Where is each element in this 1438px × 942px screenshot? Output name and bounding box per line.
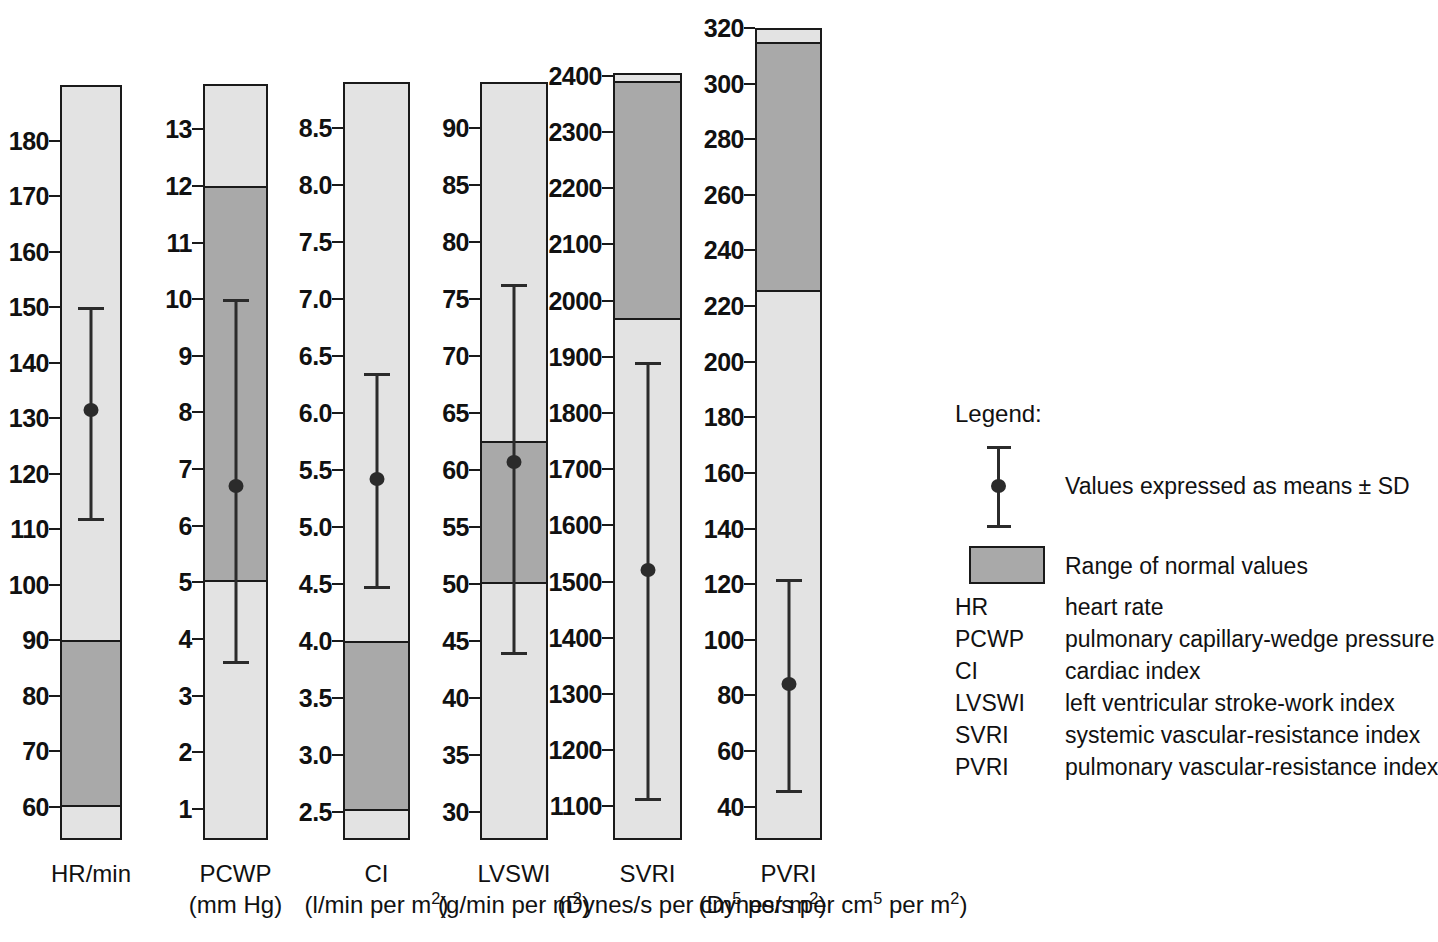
legend-abbreviation-row: HRheart rate — [955, 594, 1335, 626]
tick-label: 100 — [0, 570, 49, 599]
tick-mark — [469, 241, 480, 243]
tick-mark — [332, 811, 343, 813]
legend-abbreviation-row: CIcardiac index — [955, 658, 1335, 690]
tick-label: 60 — [639, 737, 744, 766]
tick-mark — [332, 184, 343, 186]
legend: Legend: Values expressed as means ± SD R… — [955, 400, 1335, 786]
tick-label: 1100 — [497, 792, 602, 821]
tick-label: 90 — [364, 113, 469, 142]
tick-label: 45 — [364, 626, 469, 655]
tick-mark — [744, 83, 755, 85]
tick-mark — [49, 306, 60, 308]
tick-mark — [49, 362, 60, 364]
tick-label: 60 — [0, 792, 49, 821]
tick-mark — [332, 355, 343, 357]
legend-abbreviation-definition: systemic vascular-resistance index — [1065, 722, 1420, 749]
legend-abbreviation-definition: pulmonary vascular-resistance index — [1065, 754, 1438, 781]
errorbar-bottom-cap-lvswi — [501, 652, 527, 655]
tick-mark — [744, 138, 755, 140]
tick-mark — [602, 243, 613, 245]
tick-mark — [192, 751, 203, 753]
tick-mark — [469, 526, 480, 528]
tick-mark — [192, 695, 203, 697]
tick-label: 7.0 — [227, 284, 332, 313]
tick-label: 70 — [364, 341, 469, 370]
tick-label: 4 — [87, 624, 192, 653]
tick-label: 200 — [639, 347, 744, 376]
tick-label: 130 — [0, 404, 49, 433]
tick-label: 12 — [87, 171, 192, 200]
tick-label: 150 — [0, 293, 49, 322]
tick-label: 85 — [364, 170, 469, 199]
tick-mark — [602, 468, 613, 470]
tick-mark — [192, 638, 203, 640]
tick-mark — [602, 75, 613, 77]
tick-mark — [602, 693, 613, 695]
legend-abbreviation-definition: heart rate — [1065, 594, 1163, 621]
tick-mark — [332, 127, 343, 129]
tick-label: 50 — [364, 569, 469, 598]
errorbar-bottom-cap-pvri — [776, 790, 802, 793]
legend-band-label: Range of normal values — [1065, 553, 1308, 580]
tick-label: 1500 — [497, 567, 602, 596]
tick-label: 5.0 — [227, 512, 332, 541]
errorbar-bottom-cap-pcwp — [223, 661, 249, 664]
tick-label: 11 — [87, 228, 192, 257]
tick-mark — [192, 355, 203, 357]
tick-label: 35 — [364, 740, 469, 769]
tick-label: 110 — [0, 515, 49, 544]
tick-mark — [469, 640, 480, 642]
errorbar-bottom-cap-icon — [987, 525, 1011, 528]
tick-mark — [332, 583, 343, 585]
tick-mark — [744, 361, 755, 363]
tick-label: 160 — [639, 458, 744, 487]
tick-label: 30 — [364, 797, 469, 826]
tick-mark — [469, 583, 480, 585]
normal-range-band-hr — [62, 640, 120, 807]
tick-mark — [49, 473, 60, 475]
tick-mark — [192, 242, 203, 244]
tick-label: 2200 — [497, 174, 602, 203]
legend-abbreviation-key: SVRI — [955, 722, 1065, 749]
tick-mark — [332, 640, 343, 642]
tick-label: 60 — [364, 455, 469, 484]
tick-mark — [602, 749, 613, 751]
tick-label: 40 — [639, 792, 744, 821]
tick-label: 120 — [0, 459, 49, 488]
legend-abbreviation-definition: left ventricular stroke-work index — [1065, 690, 1395, 717]
tick-label: 320 — [639, 14, 744, 43]
tick-label: 1400 — [497, 623, 602, 652]
tick-label: 120 — [639, 570, 744, 599]
tick-mark — [744, 416, 755, 418]
column-name-pvri: PVRI — [699, 858, 879, 889]
tick-mark — [49, 584, 60, 586]
tick-label: 40 — [364, 683, 469, 712]
tick-label: 1300 — [497, 679, 602, 708]
legend-abbreviation-definition: cardiac index — [1065, 658, 1201, 685]
legend-errorbar-label: Values expressed as means ± SD — [1065, 473, 1410, 500]
tick-mark — [744, 694, 755, 696]
tick-label: 8.0 — [227, 170, 332, 199]
tick-mark — [744, 528, 755, 530]
tick-mark — [192, 808, 203, 810]
tick-label: 70 — [0, 737, 49, 766]
mean-marker-pvri — [781, 677, 796, 691]
tick-label: 9 — [87, 341, 192, 370]
tick-mark — [602, 581, 613, 583]
legend-abbreviation-key: PVRI — [955, 754, 1065, 781]
tick-mark — [744, 583, 755, 585]
tick-label: 300 — [639, 69, 744, 98]
legend-abbreviation-row: PVRIpulmonary vascular-resistance index — [955, 754, 1335, 786]
tick-mark — [469, 298, 480, 300]
tick-label: 8.5 — [227, 113, 332, 142]
tick-label: 180 — [639, 403, 744, 432]
tick-label: 2.5 — [227, 797, 332, 826]
tick-mark — [192, 468, 203, 470]
tick-mark — [192, 525, 203, 527]
tick-mark — [192, 185, 203, 187]
normal-range-band-pvri — [757, 42, 820, 292]
tick-mark — [602, 805, 613, 807]
tick-mark — [602, 131, 613, 133]
tick-label: 280 — [639, 125, 744, 154]
tick-mark — [332, 697, 343, 699]
